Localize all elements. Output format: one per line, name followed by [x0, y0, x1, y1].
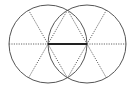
two-circle-diagram — [0, 0, 135, 90]
